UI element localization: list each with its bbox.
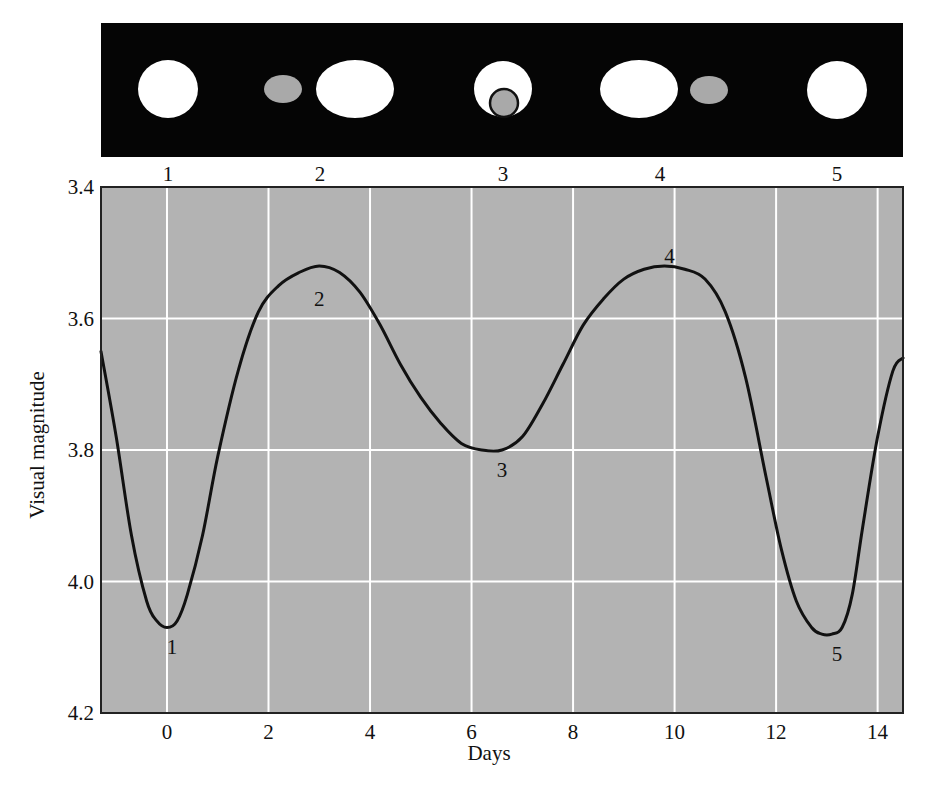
y-tick-label: 4.2: [68, 701, 94, 725]
phase-3-stars: [474, 61, 532, 117]
y-tick-label: 3.8: [68, 438, 94, 462]
phase-annotation: 2: [314, 287, 325, 311]
phase-label: 1: [163, 162, 174, 186]
phase-label: 5: [832, 162, 843, 186]
phase-label: 2: [315, 162, 326, 186]
phase-annotation: 1: [167, 635, 178, 659]
phase-annotation: 3: [497, 458, 508, 482]
bright-star-icon: [807, 61, 867, 119]
y-tick-label: 3.4: [68, 175, 95, 199]
bright-star-icon: [316, 60, 394, 118]
bright-star-icon: [138, 60, 198, 118]
phase-label: 3: [498, 162, 509, 186]
x-tick-label: 14: [867, 720, 889, 744]
phase-annotation: 5: [832, 642, 843, 666]
x-tick-label: 4: [365, 720, 376, 744]
y-axis-label: Visual magnitude: [25, 371, 49, 518]
x-tick-label: 2: [263, 720, 274, 744]
x-axis-label: Days: [467, 741, 510, 765]
x-tick-label: 10: [664, 720, 685, 744]
eclipsing-binary-figure: 12345 12345 3.43.63.84.04.2 02468101214 …: [0, 0, 925, 786]
phase-5-stars: [807, 61, 867, 119]
dim-star-icon: [690, 76, 728, 104]
light-curve-plot: 12345 3.43.63.84.04.2 02468101214 Days V…: [25, 175, 903, 765]
y-tick-label: 4.0: [68, 570, 94, 594]
phase-labels: 12345: [163, 162, 843, 186]
phase-1-stars: [138, 60, 198, 118]
phase-annotation: 4: [664, 244, 675, 268]
x-tick-label: 12: [766, 720, 787, 744]
dim-star-icon: [264, 75, 302, 103]
x-tick-label: 0: [162, 720, 173, 744]
dim-star-icon: [490, 89, 518, 117]
x-tick-label: 8: [568, 720, 579, 744]
y-tick-label: 3.6: [68, 307, 94, 331]
y-axis-ticks: 3.43.63.84.04.2: [68, 175, 95, 725]
phase-strip: 12345: [101, 23, 903, 186]
x-axis-ticks: 02468101214: [162, 720, 889, 744]
bright-star-icon: [600, 60, 678, 118]
phase-label: 4: [655, 162, 666, 186]
